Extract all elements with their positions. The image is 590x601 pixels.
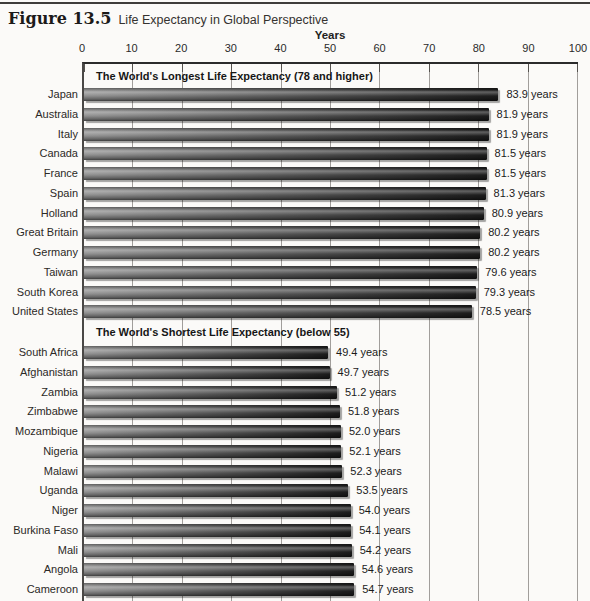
x-axis-title: Years bbox=[315, 29, 346, 41]
bar bbox=[84, 167, 487, 180]
x-axis-tick-label: 90 bbox=[522, 42, 534, 54]
x-axis-tick-label: 20 bbox=[175, 42, 187, 54]
value-label: 81.9 years bbox=[497, 128, 548, 141]
value-label: 53.5 years bbox=[356, 484, 407, 497]
bar bbox=[84, 88, 498, 101]
bar bbox=[84, 226, 480, 239]
bar bbox=[84, 484, 348, 497]
x-axis-tick-label: 70 bbox=[423, 42, 435, 54]
value-label: 52.1 years bbox=[349, 445, 400, 458]
bar-row: Cameroon54.7 years bbox=[84, 583, 578, 596]
value-label: 81.5 years bbox=[495, 147, 546, 160]
axis-tick bbox=[577, 64, 578, 72]
value-label: 79.6 years bbox=[485, 266, 536, 279]
value-label: 81.5 years bbox=[495, 167, 546, 180]
bar bbox=[84, 405, 340, 418]
value-label: 49.4 years bbox=[336, 346, 387, 359]
axis-tick bbox=[429, 64, 430, 72]
bar bbox=[84, 108, 489, 121]
section-title: The World's Shortest Life Expectancy (be… bbox=[96, 326, 350, 338]
value-label: 54.0 years bbox=[359, 504, 410, 517]
bar bbox=[84, 386, 337, 399]
bar-row: Italy81.9 years bbox=[84, 128, 578, 141]
figure-number: Figure 13.5 bbox=[8, 9, 111, 28]
x-axis-tick-label: 30 bbox=[225, 42, 237, 54]
country-label: Niger bbox=[52, 504, 78, 517]
country-label: France bbox=[44, 167, 78, 180]
country-label: Zambia bbox=[41, 386, 78, 399]
axis-tick bbox=[84, 64, 85, 72]
bar-row: Canada81.5 years bbox=[84, 147, 578, 160]
value-label: 78.5 years bbox=[480, 305, 531, 318]
bar-row: Burkina Faso54.1 years bbox=[84, 524, 578, 537]
value-label: 54.7 years bbox=[362, 583, 413, 596]
value-label: 51.2 years bbox=[345, 386, 396, 399]
bar bbox=[84, 583, 354, 596]
country-label: Afghanistan bbox=[20, 366, 78, 379]
figure-page: { "figure": { "label": "Figure 13.5", "t… bbox=[0, 0, 590, 601]
bar-row: South Africa49.4 years bbox=[84, 346, 578, 359]
bar-row: Holland80.9 years bbox=[84, 207, 578, 220]
bar-row: Zimbabwe51.8 years bbox=[84, 405, 578, 418]
bar bbox=[84, 465, 342, 478]
plot-area: The World's Longest Life Expectancy (78 … bbox=[82, 62, 578, 601]
country-label: Holland bbox=[41, 207, 78, 220]
x-axis-tick-labels: 0102030405060708090100 bbox=[82, 42, 578, 55]
gridline bbox=[528, 64, 529, 601]
bar-row: France81.5 years bbox=[84, 167, 578, 180]
bar-row: Angola54.6 years bbox=[84, 563, 578, 576]
country-label: Zimbabwe bbox=[27, 405, 78, 418]
bar-row: United States78.5 years bbox=[84, 305, 578, 318]
value-label: 54.6 years bbox=[362, 563, 413, 576]
country-label: Italy bbox=[58, 128, 78, 141]
country-label: Uganda bbox=[39, 484, 78, 497]
bar bbox=[84, 305, 472, 318]
bar bbox=[84, 366, 330, 379]
value-label: 80.9 years bbox=[492, 207, 543, 220]
axis-tick bbox=[478, 64, 479, 72]
country-label: Taiwan bbox=[44, 266, 78, 279]
country-label: Nigeria bbox=[43, 445, 78, 458]
x-axis-tick-label: 60 bbox=[373, 42, 385, 54]
value-label: 81.3 years bbox=[494, 187, 545, 200]
country-label: Australia bbox=[35, 108, 78, 121]
x-axis-tick-label: 0 bbox=[79, 42, 85, 54]
figure-top-rule bbox=[0, 2, 590, 4]
bar-row: Spain81.3 years bbox=[84, 187, 578, 200]
country-label: Japan bbox=[48, 88, 78, 101]
bar bbox=[84, 266, 477, 279]
country-label: Mali bbox=[58, 544, 78, 557]
bar-row: Mali54.2 years bbox=[84, 544, 578, 557]
bar bbox=[84, 246, 480, 259]
x-axis-tick-label: 10 bbox=[125, 42, 137, 54]
bar-row: Nigeria52.1 years bbox=[84, 445, 578, 458]
bar-row: Malawi52.3 years bbox=[84, 465, 578, 478]
value-label: 83.9 years bbox=[506, 88, 557, 101]
bar bbox=[84, 147, 487, 160]
bar-row: Taiwan79.6 years bbox=[84, 266, 578, 279]
bar-row: Japan83.9 years bbox=[84, 88, 578, 101]
bar-row: Zambia51.2 years bbox=[84, 386, 578, 399]
bar bbox=[84, 128, 489, 141]
x-axis-tick-label: 40 bbox=[274, 42, 286, 54]
bar bbox=[84, 504, 351, 517]
bar bbox=[84, 563, 354, 576]
bar-row: Australia81.9 years bbox=[84, 108, 578, 121]
country-label: Angola bbox=[44, 563, 78, 576]
value-label: 80.2 years bbox=[488, 226, 539, 239]
value-label: 54.1 years bbox=[359, 524, 410, 537]
bar-row: Uganda53.5 years bbox=[84, 484, 578, 497]
bar bbox=[84, 445, 341, 458]
bar bbox=[84, 346, 328, 359]
gridline bbox=[577, 64, 578, 601]
section-title: The World's Longest Life Expectancy (78 … bbox=[96, 70, 373, 82]
axis-tick bbox=[379, 64, 380, 72]
bar bbox=[84, 524, 351, 537]
bar-row: South Korea79.3 years bbox=[84, 286, 578, 299]
country-label: Great Britain bbox=[16, 226, 78, 239]
bar bbox=[84, 207, 484, 220]
gridline bbox=[429, 64, 430, 601]
country-label: South Africa bbox=[19, 346, 78, 359]
bar-row: Great Britain80.2 years bbox=[84, 226, 578, 239]
country-label: Germany bbox=[33, 246, 78, 259]
